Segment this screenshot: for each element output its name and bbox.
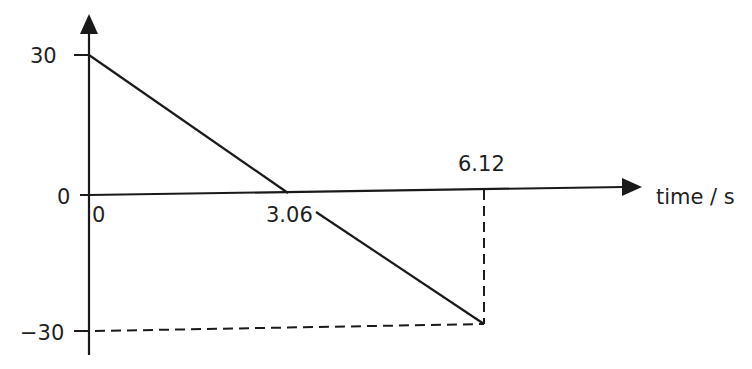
x-label-0: 0 <box>92 203 105 227</box>
x-axis-title: time / s <box>656 185 735 209</box>
x-label-3-06: 3.06 <box>266 203 313 227</box>
x-axis <box>89 178 642 196</box>
y-label-30: 30 <box>30 44 57 68</box>
velocity-time-graph: velocity / m s⁻¹ 30 0 −30 0 3.06 6.12 ti… <box>0 0 752 369</box>
y-label-0: 0 <box>57 185 70 209</box>
y-label-neg30: −30 <box>20 321 64 345</box>
dashed-guide-horizontal <box>95 324 484 331</box>
y-axis <box>74 14 98 355</box>
x-label-6-12: 6.12 <box>458 152 505 176</box>
y-axis-arrow-icon <box>80 14 98 34</box>
x-axis-arrow-icon <box>622 178 642 196</box>
